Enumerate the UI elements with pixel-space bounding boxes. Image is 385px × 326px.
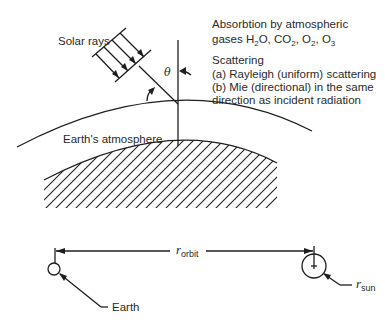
arrowhead-left-icon — [56, 248, 65, 254]
absorption-text: Absorbtion by atmospheric gases H2O, CO2… — [212, 18, 348, 48]
angle-arrow-right — [179, 67, 191, 75]
r-sun-label: rsun — [356, 276, 376, 293]
solar-rays-label: Solar rays — [58, 35, 110, 47]
earth-leader-diagonal — [60, 274, 101, 307]
diagram-canvas: Solar rays θ Absorbtion by atmospheric g… — [0, 0, 385, 326]
arrowhead-icon — [323, 273, 331, 280]
scattering-title: Scattering — [212, 54, 264, 66]
rays-front-edge — [115, 50, 151, 82]
arrowhead-icon — [179, 67, 186, 75]
earth-circle — [48, 263, 60, 275]
solar-radiation-diagram: Solar rays θ Absorbtion by atmospheric g… — [0, 0, 385, 326]
ray-4 — [120, 33, 144, 57]
angle-arrow-left — [147, 87, 155, 101]
ray-2 — [104, 47, 128, 71]
ray-3 — [112, 40, 136, 64]
absorption-line-1: Absorbtion by atmospheric — [212, 18, 348, 30]
earth-label: Earth — [112, 301, 140, 313]
ray-1 — [96, 54, 119, 78]
scattering-mie-line-1: (b) Mie (directional) in the same — [212, 81, 374, 93]
r-orbit-label: rorbit — [176, 242, 199, 259]
orbit-schematic: rorbit rsun Earth — [48, 242, 376, 313]
arrowhead-icon — [59, 273, 67, 281]
arrowhead-right-icon — [304, 248, 313, 254]
scattering-rayleigh: (a) Rayleigh (uniform) scattering — [212, 68, 376, 80]
scattering-text: Scattering (a) Rayleigh (uniform) scatte… — [212, 54, 376, 106]
atmosphere-outer-boundary — [17, 100, 312, 147]
earth-surface-hatching — [20, 134, 340, 214]
incident-ray — [139, 66, 178, 104]
absorption-line-2: gases H2O, CO2, O2, O3 — [212, 33, 336, 48]
theta-label: θ — [164, 66, 171, 79]
